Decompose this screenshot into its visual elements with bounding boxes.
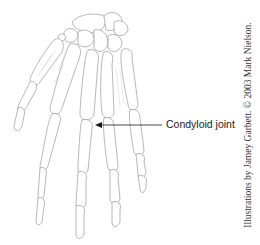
carpal-bones bbox=[58, 13, 128, 52]
middle-finger-bones bbox=[76, 50, 99, 239]
condyloid-joint-label: Condyloid joint bbox=[166, 118, 235, 130]
ring-finger-bones bbox=[101, 52, 124, 227]
illustration-credit: Illustrations by Jamey Garbett. © 2003 M… bbox=[243, 22, 253, 227]
hand-bone-illustration: Condyloid joint Illustrations by Jamey G… bbox=[0, 0, 260, 245]
little-finger-bones bbox=[121, 49, 147, 193]
